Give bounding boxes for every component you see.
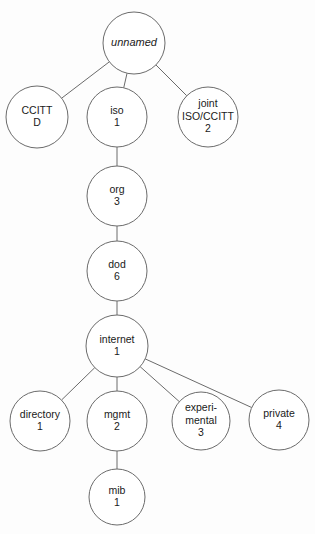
node-label-mgmt: mgmt — [104, 408, 130, 420]
node-iso[interactable]: iso1 — [87, 87, 147, 147]
node-mgmt[interactable]: mgmt2 — [87, 391, 147, 451]
node-label-unnamed: unnamed — [111, 36, 158, 48]
node-value-ccitt: D — [33, 116, 41, 128]
edge-unnamed-to-iso — [124, 73, 127, 88]
node-ccitt[interactable]: CCITTD — [6, 86, 68, 148]
node-value-dod: 6 — [114, 270, 120, 282]
node-internet[interactable]: internet1 — [86, 315, 148, 377]
node-layer: unnamedCCITTDiso1jointISO/CCITT2org3dod6… — [6, 12, 309, 525]
node-label2-experimental: mental — [185, 414, 217, 426]
node-value-org: 3 — [114, 195, 120, 207]
node-unnamed[interactable]: unnamed — [103, 12, 165, 74]
node-label-ccitt: CCITT — [22, 104, 53, 116]
node-value-joint: 2 — [205, 122, 211, 134]
node-value-internet: 1 — [114, 345, 120, 357]
node-value-mgmt: 2 — [114, 420, 120, 432]
node-label-joint: joint — [197, 97, 217, 109]
node-value-experimental: 3 — [198, 426, 204, 438]
node-label-directory: directory — [20, 408, 61, 420]
node-org[interactable]: org3 — [87, 166, 147, 226]
node-directory[interactable]: directory1 — [10, 391, 70, 451]
node-private[interactable]: private4 — [249, 390, 309, 450]
node-value-directory: 1 — [37, 420, 43, 432]
node-experimental[interactable]: experi-mental3 — [172, 392, 230, 450]
node-value-private: 4 — [276, 419, 282, 431]
node-value-mib: 1 — [114, 496, 120, 508]
node-label-internet: internet — [99, 333, 134, 345]
node-joint[interactable]: jointISO/CCITT2 — [178, 87, 238, 147]
node-label2-joint: ISO/CCITT — [182, 110, 235, 122]
node-label-org: org — [109, 183, 124, 195]
node-value-iso: 1 — [114, 116, 120, 128]
oid-tree-diagram: unnamedCCITTDiso1jointISO/CCITT2org3dod6… — [0, 0, 315, 534]
edge-unnamed-to-joint — [156, 65, 187, 96]
node-label-private: private — [263, 407, 295, 419]
node-label-dod: dod — [108, 258, 126, 270]
node-label-experimental: experi- — [185, 401, 218, 413]
edge-internet-to-directory — [61, 368, 94, 400]
node-mib[interactable]: mib1 — [89, 469, 145, 525]
node-label-mib: mib — [109, 484, 126, 496]
node-label-iso: iso — [110, 104, 124, 116]
node-dod[interactable]: dod6 — [87, 241, 147, 301]
